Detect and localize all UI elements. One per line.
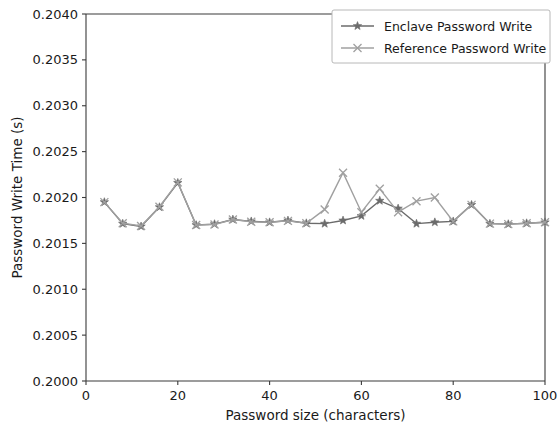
line-chart-canvas: 0.20000.20050.20100.20150.20200.20250.20…: [0, 0, 558, 424]
y-tick-label: 0.2035: [33, 52, 79, 67]
x-tick-label: 100: [533, 388, 558, 403]
legend-label: Enclave Password Write: [384, 19, 533, 34]
x-tick-label: 60: [353, 388, 370, 403]
x-tick-label: 80: [445, 388, 462, 403]
legend-label: Reference Password Write: [384, 41, 547, 56]
y-tick-label: 0.2000: [33, 374, 79, 389]
y-tick-label: 0.2020: [33, 190, 79, 205]
figure-background: [0, 0, 558, 424]
y-tick-label: 0.2005: [33, 328, 79, 343]
y-tick-label: 0.2030: [33, 98, 79, 113]
y-tick-label: 0.2040: [33, 7, 79, 22]
y-tick-label: 0.2015: [33, 236, 79, 251]
x-tick-label: 20: [170, 388, 187, 403]
chart-legend[interactable]: Enclave Password WriteReference Password…: [332, 10, 550, 63]
chart-figure: 0.20000.20050.20100.20150.20200.20250.20…: [0, 0, 558, 424]
y-axis-ticks: 0.20000.20050.20100.20150.20200.20250.20…: [33, 7, 87, 389]
x-axis-label: Password size (characters): [225, 407, 405, 423]
y-axis-label: Password Write Time (s): [9, 116, 25, 278]
y-tick-label: 0.2025: [33, 144, 79, 159]
x-tick-label: 40: [261, 388, 278, 403]
y-tick-label: 0.2010: [33, 282, 79, 297]
x-tick-label: 0: [82, 388, 90, 403]
